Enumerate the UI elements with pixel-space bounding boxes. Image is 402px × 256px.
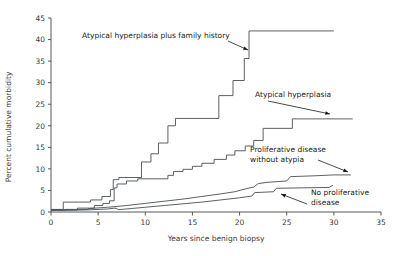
y-tick-label-5: 5	[40, 186, 45, 195]
cumulative-morbidity-step-chart: 051015202530354045 05101520253035 Atypic…	[0, 0, 402, 256]
y-tick-label-15: 15	[35, 143, 45, 152]
x-tick-label-0: 0	[49, 218, 54, 227]
ann-atypical-line-0: Atypical hyperplasia	[255, 90, 331, 99]
ann-atypical-family-line-0: Atypical hyperplasia plus family history	[82, 31, 230, 40]
chart-figure: 051015202530354045 05101520253035 Atypic…	[0, 0, 402, 256]
ann-proliferative-line-1: without atypia	[250, 155, 304, 164]
y-axis-title: Percent cumulative morbidity	[4, 71, 13, 182]
y-tick-label-0: 0	[40, 208, 45, 217]
x-tick-label-15: 15	[188, 218, 198, 227]
x-tick-label-5: 5	[96, 218, 101, 227]
x-axis-title: Years since benign biopsy	[167, 234, 265, 243]
ann-no-proliferative-line-1: disease	[311, 198, 340, 207]
ann-proliferative-line-0: Proliferative disease	[250, 145, 326, 154]
y-tick-label-10: 10	[35, 165, 45, 174]
x-tick-label-25: 25	[282, 218, 292, 227]
y-tick-label-35: 35	[35, 57, 45, 66]
y-tick-label-40: 40	[35, 35, 45, 44]
y-tick-label-20: 20	[35, 122, 45, 131]
x-tick-label-10: 10	[141, 218, 151, 227]
ann-no-proliferative-line-0: No proliferative	[311, 188, 369, 197]
x-tick-label-35: 35	[376, 218, 386, 227]
x-tick-label-20: 20	[235, 218, 245, 227]
y-tick-label-30: 30	[35, 78, 45, 87]
y-tick-label-25: 25	[35, 100, 45, 109]
y-tick-label-45: 45	[35, 14, 45, 23]
x-tick-label-30: 30	[329, 218, 339, 227]
